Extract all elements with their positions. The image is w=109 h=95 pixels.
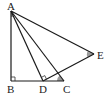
point-label-a: A bbox=[7, 0, 15, 12]
segment-ae bbox=[11, 11, 94, 54]
point-label-e: E bbox=[97, 49, 104, 61]
segment-de bbox=[43, 54, 94, 81]
point-label-d: D bbox=[39, 83, 47, 95]
segment-ac bbox=[11, 11, 64, 81]
geometry-diagram: A B D C E bbox=[0, 0, 109, 95]
point-label-b: B bbox=[7, 83, 14, 95]
point-label-c: C bbox=[63, 83, 70, 95]
